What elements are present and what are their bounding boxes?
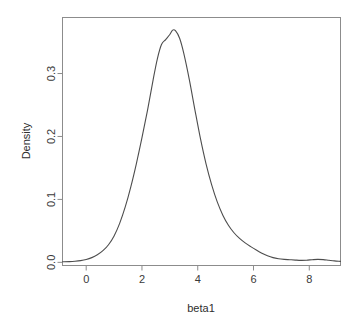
y-tick-label: 0.2 [46,129,58,144]
x-tick-label: 4 [195,273,201,285]
y-axis-title: Density [20,122,32,159]
x-tick-label: 8 [306,273,312,285]
figure-background [0,0,357,324]
x-tick-label: 0 [83,273,89,285]
x-tick-label: 2 [139,273,145,285]
y-tick-label: 0.1 [46,192,58,207]
x-axis-title: beta1 [187,302,215,314]
x-tick-label: 6 [250,273,256,285]
y-tick-label: 0.3 [46,66,58,81]
y-tick-label: 0.0 [46,255,58,270]
density-plot-figure: 02468 0.00.10.20.3 beta1 Density [0,0,357,324]
density-plot-page: 02468 0.00.10.20.3 beta1 Density [0,0,357,324]
